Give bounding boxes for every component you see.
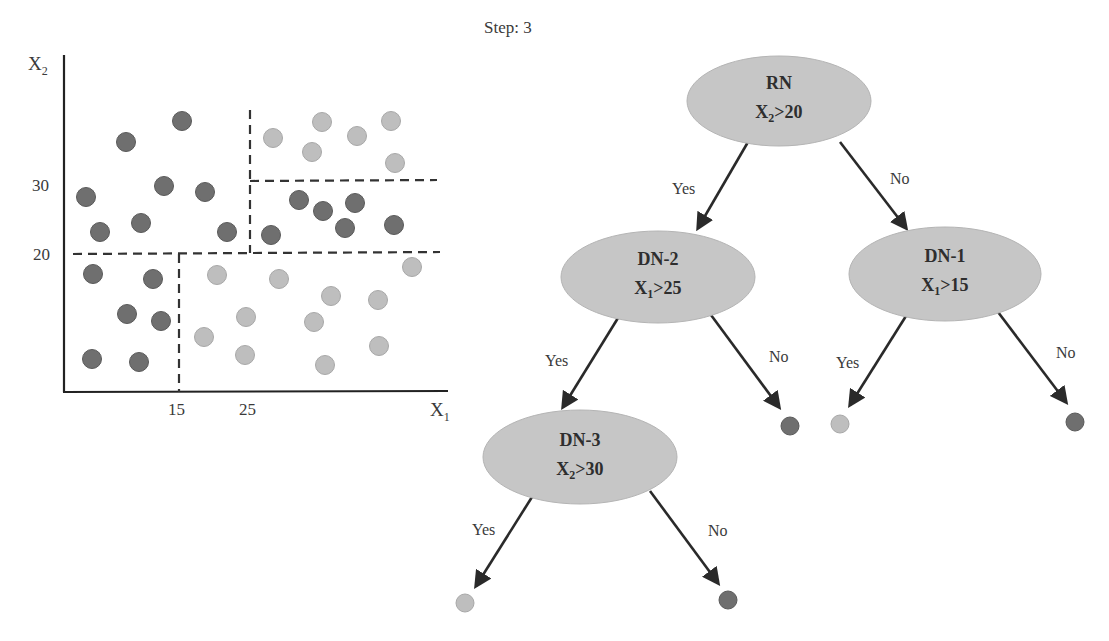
data-point-dark [385, 216, 404, 235]
decision-tree: Yes No Yes No Yes No Yes No RN X2>20 DN-… [456, 56, 1084, 612]
tree-node-dn1: DN-1 X1>15 [849, 227, 1041, 321]
edge-label-dn1-yes: Yes [836, 354, 859, 371]
node-root-condition: X2>20 [755, 102, 802, 125]
leaf-dn3-yes-light [456, 594, 474, 612]
data-point-light [386, 154, 405, 173]
data-point-dark [91, 223, 110, 242]
data-point-dark [117, 133, 136, 152]
y-axis-label: X2 [28, 53, 48, 78]
data-point-dark [336, 219, 355, 238]
data-point-light [313, 113, 332, 132]
data-point-dark [118, 305, 137, 324]
node-dn2-condition: X1>25 [634, 278, 681, 301]
leaf-dn1-no-dark [1066, 413, 1084, 431]
data-point-light [369, 291, 388, 310]
split-x2-20 [73, 252, 440, 254]
data-point-dark [130, 353, 149, 372]
leaf-dn2-no-dark [781, 417, 799, 435]
data-point-light [208, 266, 227, 285]
data-point-light [370, 337, 389, 356]
node-dn1-name: DN-1 [925, 246, 966, 266]
node-dn3-name: DN-3 [560, 430, 601, 450]
data-point-dark [262, 226, 281, 245]
edge-label-dn3-yes: Yes [472, 521, 495, 538]
y-tick-30: 30 [32, 176, 49, 195]
data-point-dark [144, 270, 163, 289]
edge-dn3-yes [476, 497, 532, 586]
data-point-dark [77, 188, 96, 207]
edge-label-dn1-no: No [1056, 344, 1076, 361]
x-tick-25: 25 [239, 400, 256, 419]
data-point-light [348, 127, 367, 146]
data-point-dark [196, 183, 215, 202]
data-point-dark [83, 350, 102, 369]
edge-label-dn2-no: No [769, 348, 789, 365]
edge-label-dn3-no: No [708, 522, 728, 539]
edge-label-root-no: No [890, 170, 910, 187]
node-dn1-condition: X1>15 [921, 275, 968, 298]
step-title: Step: 3 [484, 18, 532, 37]
x-axis-label: X1 [430, 399, 450, 424]
data-point-light [236, 346, 255, 365]
leaf-dn3-no-dark [719, 591, 737, 609]
data-point-light [322, 287, 341, 306]
data-point-light [403, 258, 422, 277]
data-point-light [264, 129, 283, 148]
data-point-dark [152, 312, 171, 331]
tree-node-root: RN X2>20 [687, 56, 871, 146]
x-axis [63, 391, 448, 392]
edge-dn2-yes [563, 318, 618, 407]
split-x2-30 [250, 180, 437, 181]
edge-label-root-yes: Yes [672, 180, 695, 197]
leaf-dn1-yes-light [831, 415, 849, 433]
data-point-dark [218, 223, 237, 242]
tree-node-dn2: DN-2 X1>25 [561, 231, 755, 323]
y-tick-20: 20 [33, 245, 50, 264]
data-point-light [305, 313, 324, 332]
data-point-light [316, 356, 335, 375]
tree-node-dn3: DN-3 X2>30 [483, 410, 677, 504]
data-point-dark [290, 191, 309, 210]
data-point-dark [173, 112, 192, 131]
diagram-canvas: Step: 3 X2 X1 30 20 15 25 [0, 0, 1109, 641]
scatter-plot: X2 X1 30 20 15 25 [28, 53, 450, 424]
data-point-dark [346, 194, 365, 213]
light-class-points [195, 112, 422, 375]
node-dn3-condition: X2>30 [556, 459, 603, 482]
data-point-dark [155, 177, 174, 196]
dark-class-points [77, 112, 404, 372]
node-dn2-name: DN-2 [638, 249, 679, 269]
edge-root-yes [698, 142, 748, 228]
data-point-light [303, 143, 322, 162]
data-point-dark [314, 202, 333, 221]
data-point-light [195, 328, 214, 347]
edge-label-dn2-yes: Yes [545, 352, 568, 369]
data-point-dark [84, 265, 103, 284]
data-point-dark [132, 214, 151, 233]
x-tick-15: 15 [168, 400, 185, 419]
node-root-name: RN [766, 73, 792, 93]
data-point-light [270, 270, 289, 289]
data-point-light [237, 308, 256, 327]
data-point-light [382, 112, 401, 131]
